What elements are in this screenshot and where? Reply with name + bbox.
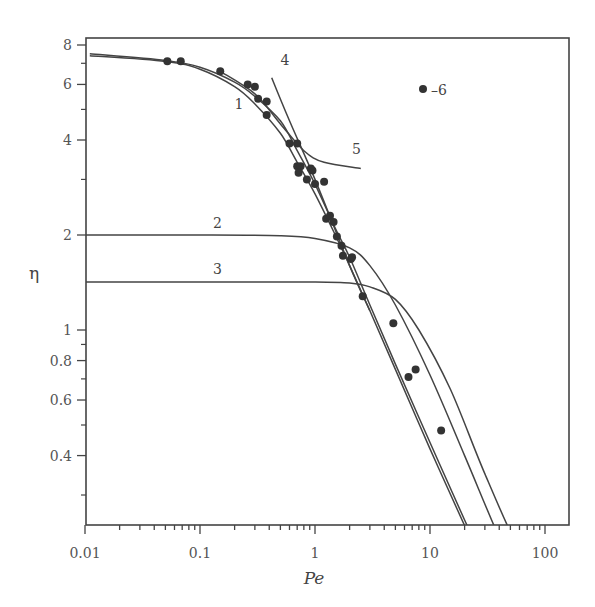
data-point bbox=[333, 232, 341, 240]
data-point bbox=[404, 373, 412, 381]
chart: 0.010.1110100 0.40.60.812468 12345 –6 Pe… bbox=[0, 0, 595, 607]
x-axis: 0.010.1110100 bbox=[69, 525, 558, 561]
data-point bbox=[263, 111, 271, 119]
data-point bbox=[412, 365, 420, 373]
data-point bbox=[339, 252, 347, 260]
curve-1 bbox=[90, 56, 494, 590]
y-tick-label: 0.4 bbox=[50, 448, 72, 464]
data-point bbox=[311, 180, 319, 188]
data-point bbox=[437, 427, 445, 435]
y-tick-label: 2 bbox=[63, 227, 72, 243]
data-points bbox=[163, 57, 445, 434]
y-tick-label: 1 bbox=[63, 322, 72, 338]
data-point bbox=[163, 57, 171, 65]
data-point bbox=[348, 253, 356, 261]
x-axis-title: Pe bbox=[303, 568, 325, 588]
x-tick-label: 0.01 bbox=[69, 545, 100, 561]
data-point bbox=[330, 218, 338, 226]
data-point bbox=[295, 169, 303, 177]
data-point bbox=[389, 319, 397, 327]
curves bbox=[85, 54, 547, 590]
data-point bbox=[177, 57, 185, 65]
data-point bbox=[307, 164, 315, 172]
y-axis-title: η bbox=[29, 263, 39, 283]
curve-label-4: 4 bbox=[280, 52, 289, 68]
curve-label-2: 2 bbox=[213, 215, 222, 231]
curve-1b bbox=[90, 54, 497, 590]
data-point bbox=[254, 95, 262, 103]
legend: –6 bbox=[419, 82, 447, 98]
y-axis: 0.40.60.812468 bbox=[50, 37, 86, 495]
x-tick-label: 0.1 bbox=[189, 545, 211, 561]
data-point bbox=[320, 178, 328, 186]
x-tick-label: 1 bbox=[311, 545, 320, 561]
data-point bbox=[285, 139, 293, 147]
data-point bbox=[263, 97, 271, 105]
x-tick-label: 10 bbox=[421, 545, 439, 561]
y-tick-label: 4 bbox=[63, 132, 72, 148]
curve-3 bbox=[85, 282, 547, 590]
y-tick-label: 0.8 bbox=[50, 353, 72, 369]
legend-label: –6 bbox=[431, 82, 447, 98]
curve-label-5: 5 bbox=[352, 141, 361, 157]
data-point bbox=[293, 139, 301, 147]
x-tick-label: 100 bbox=[532, 545, 559, 561]
data-point bbox=[244, 80, 252, 88]
data-point bbox=[251, 83, 259, 91]
data-point bbox=[303, 175, 311, 183]
data-point bbox=[359, 292, 367, 300]
y-tick-label: 6 bbox=[63, 76, 72, 92]
data-point bbox=[338, 242, 346, 250]
y-tick-label: 0.6 bbox=[50, 392, 72, 408]
data-point bbox=[216, 67, 224, 75]
curve-4 bbox=[272, 78, 370, 311]
curve-label-1: 1 bbox=[235, 96, 244, 112]
legend-marker-icon bbox=[419, 85, 427, 93]
curve-label-3: 3 bbox=[213, 261, 222, 277]
y-tick-label: 8 bbox=[63, 37, 72, 53]
